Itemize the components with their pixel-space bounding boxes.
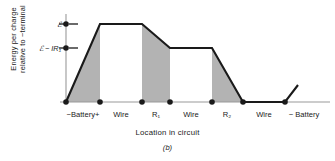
- potential-curve: [66, 24, 298, 102]
- x-tick-label-r1: R₁: [140, 110, 172, 119]
- y-tick-label-emf-minus-ir1: ℰ − IR₁: [39, 44, 61, 53]
- x-tick-label-r2: R₂: [211, 110, 243, 119]
- figure-panel-b: Energy per charge relative to −terminal …: [0, 0, 335, 161]
- node-dot-battery-minus: [63, 99, 69, 105]
- node-dot-battery2: [282, 99, 288, 105]
- x-tick-label-wire2: Wire: [173, 110, 209, 119]
- x-axis-title: Location in circuit: [0, 128, 335, 137]
- panel-caption: (b): [0, 143, 335, 152]
- x-tick-label-battery2: − Battery: [279, 110, 329, 119]
- y-axis-title-line1: Energy per charge: [9, 0, 18, 99]
- y-axis-tick-marks: [59, 24, 78, 48]
- node-dot-r2-end: [240, 99, 246, 105]
- node-dot-battery-plus: [97, 99, 103, 105]
- node-dot-r1-start: [139, 99, 145, 105]
- x-tick-label-wire3: Wire: [246, 110, 282, 119]
- node-dot-r2-start: [209, 99, 215, 105]
- y-value-dot-emf: [63, 21, 69, 27]
- node-dot-r1-end: [167, 99, 173, 105]
- y-axis-title-line2: relative to −terminal: [18, 0, 27, 99]
- y-axis-title: Energy per charge relative to −terminal: [9, 0, 35, 99]
- y-tick-label-emf: ℰ: [57, 20, 61, 29]
- y-value-dot-emf-minus-ir1: [63, 45, 69, 51]
- x-tick-label-wire1: Wire: [103, 110, 139, 119]
